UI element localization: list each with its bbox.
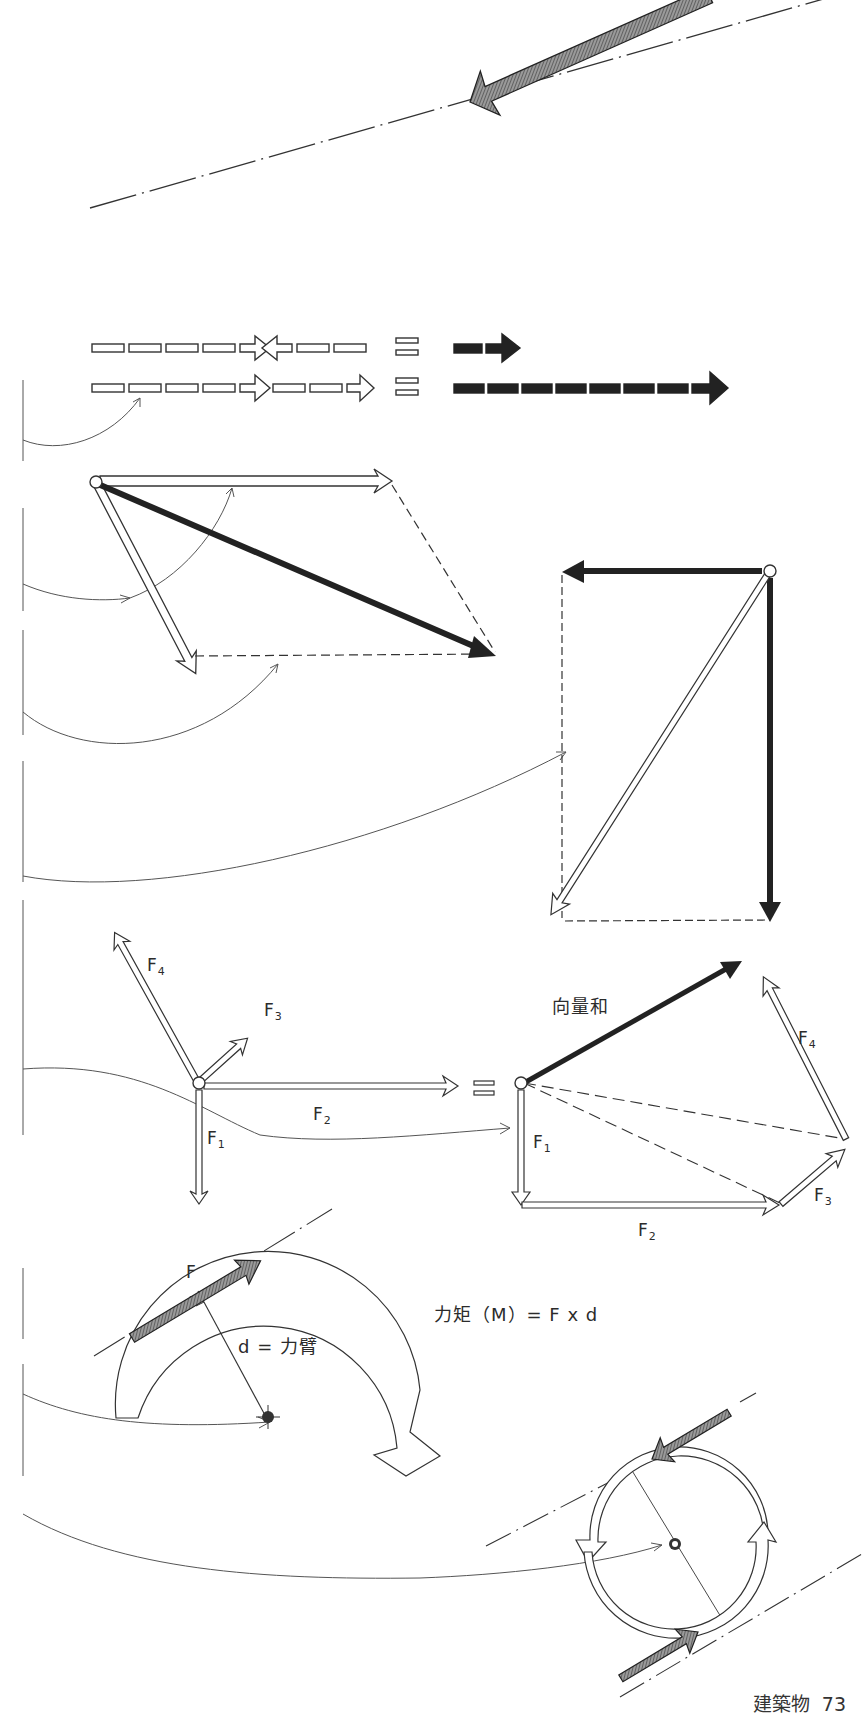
open-force-horizontal — [100, 469, 392, 493]
pivot-point-icon — [256, 1405, 280, 1429]
page-number: 73 — [822, 1693, 846, 1715]
poly-label-f4: F4 — [798, 1028, 816, 1051]
poly-label-f1: F1 — [533, 1132, 551, 1155]
open-arrow-right-icon — [347, 375, 374, 401]
pivot-point-icon — [669, 1538, 681, 1550]
open-force-f2 — [204, 1076, 458, 1096]
couple-diagram — [486, 1393, 862, 1697]
lever-arm-label: d = 力臂 — [238, 1332, 318, 1358]
poly-label-f2: F2 — [638, 1220, 656, 1243]
collinear-addition-diagram — [92, 334, 728, 404]
solid-arrowhead-down-icon — [759, 902, 781, 922]
section-title: 建築物 — [753, 1693, 810, 1715]
concurrent-forces-diagram — [107, 928, 494, 1204]
resolution-diagram — [542, 560, 781, 922]
parallelogram-diagram — [86, 469, 496, 679]
row2-open-segments — [92, 375, 374, 401]
open-force-f2 — [522, 1195, 779, 1215]
point-of-application — [764, 565, 776, 577]
moment-formula: 力矩（M）= F x d — [434, 1300, 598, 1326]
point-of-application — [193, 1077, 205, 1089]
rotation-arrow-icon — [584, 1522, 776, 1638]
moment-force-label: F — [186, 1262, 196, 1282]
resultant-force — [98, 484, 478, 648]
row2-solid-result — [454, 372, 728, 404]
point-of-application — [515, 1077, 527, 1089]
label-f4: F4 — [147, 955, 165, 978]
open-force-f1 — [512, 1090, 530, 1205]
rotation-arrow-icon — [115, 1251, 440, 1476]
open-force-f4 — [107, 928, 206, 1087]
open-force-f1 — [190, 1090, 208, 1204]
diagram-canvas — [0, 0, 862, 1720]
row1-open-segments — [92, 336, 366, 360]
label-f3: F3 — [264, 1000, 282, 1023]
row2-equals-sign — [396, 378, 418, 395]
resultant-force — [524, 969, 726, 1083]
open-arrow-left-icon — [262, 336, 292, 360]
solid-arrow-right-icon — [692, 372, 728, 404]
label-f1: F1 — [207, 1128, 225, 1151]
resultant-label: 向量和 — [552, 992, 609, 1018]
row1-solid-result — [454, 334, 520, 362]
row1-equals-sign — [396, 338, 418, 355]
point-of-application — [90, 476, 102, 488]
solid-arrowhead-left-icon — [562, 560, 584, 583]
solid-arrow-right-icon — [486, 334, 520, 362]
open-force-f3 — [775, 1143, 851, 1211]
hatched-force-arrow-icon — [460, 0, 719, 124]
open-force-f4 — [755, 973, 854, 1143]
poly-label-f3: F3 — [814, 1185, 832, 1208]
equals-sign — [474, 1081, 494, 1085]
open-arrow-right-icon — [240, 375, 270, 401]
label-f2: F2 — [313, 1104, 331, 1127]
line-of-action-diagram — [90, 0, 862, 208]
page-footer: 建築物 73 — [753, 1689, 846, 1716]
open-force-diagonal — [542, 569, 776, 920]
